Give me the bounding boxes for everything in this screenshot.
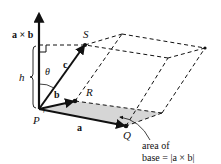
label-Q: Q (123, 129, 131, 141)
label-P: P (32, 114, 40, 126)
label-P-prime: ′ (43, 110, 45, 119)
label-a: a (77, 122, 82, 133)
point-R (73, 99, 78, 104)
label-c: c (63, 59, 68, 70)
label-area-line2: base = |a × b| (142, 152, 195, 163)
label-theta: θ (45, 66, 50, 77)
label-h: h (19, 71, 25, 83)
label-b: b (54, 89, 60, 100)
point-S (83, 43, 87, 47)
h-brace (30, 46, 36, 108)
parallelepiped-diagram: a × b h θ c b a P ′ Q R S area of base =… (0, 0, 221, 164)
label-axb: a × b (12, 29, 34, 40)
theta-arc (39, 84, 54, 88)
label-R: R (85, 86, 93, 98)
point-Q (124, 124, 129, 129)
label-S: S (83, 28, 89, 40)
label-area-line1: area of (142, 140, 170, 151)
c-vector (39, 46, 84, 109)
point-corner (203, 46, 206, 49)
